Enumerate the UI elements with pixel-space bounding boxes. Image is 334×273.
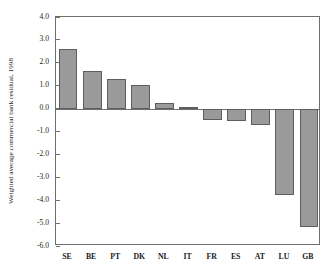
plot-area: 4.03.02.01.00.0-1.0-2.0-3.0-4.0-5.0-6.0 xyxy=(55,16,320,245)
bar-se xyxy=(59,49,78,109)
y-axis-tick-mark xyxy=(56,200,60,201)
x-axis-label-it: IT xyxy=(183,252,191,261)
y-axis-title-container: Weighted average commercial bank residua… xyxy=(4,16,18,245)
x-axis-label-gb: GB xyxy=(302,252,313,261)
x-axis-label-fr: FR xyxy=(206,252,216,261)
plot-inner: 4.03.02.01.00.0-1.0-2.0-3.0-4.0-5.0-6.0 xyxy=(56,17,319,244)
x-axis-label-dk: DK xyxy=(133,252,145,261)
y-axis-tick-label: -4.0 xyxy=(37,195,49,204)
y-axis-tick-mark xyxy=(56,131,60,132)
x-axis-label-nl: NL xyxy=(158,252,169,261)
y-axis-tick-mark xyxy=(56,154,60,155)
bar-lu xyxy=(275,109,294,196)
bar-nl xyxy=(155,103,174,109)
x-axis-label-be: BE xyxy=(86,252,96,261)
y-axis-tick-label: 3.0 xyxy=(40,34,50,43)
bar-dk xyxy=(131,85,150,109)
y-axis-tick-label: -6.0 xyxy=(37,241,49,250)
y-axis-tick-label: -5.0 xyxy=(37,218,49,227)
figure: Weighted average commercial bank residua… xyxy=(0,0,334,273)
bar-pt xyxy=(107,79,126,108)
x-axis-label-es: ES xyxy=(231,252,241,261)
x-axis-label-at: AT xyxy=(255,252,265,261)
y-axis-tick-mark xyxy=(56,246,60,247)
y-axis-tick-mark xyxy=(56,17,60,18)
y-axis-tick-mark xyxy=(56,39,60,40)
y-axis-tick-label: 1.0 xyxy=(40,80,50,89)
y-axis-tick-label: 0.0 xyxy=(40,103,50,112)
y-axis-tick-label: -2.0 xyxy=(37,149,49,158)
bar-es xyxy=(227,109,246,121)
bar-at xyxy=(251,109,270,125)
x-axis-label-lu: LU xyxy=(278,252,289,261)
x-axis-label-pt: PT xyxy=(110,252,120,261)
bar-it xyxy=(179,107,198,109)
y-axis-tick-mark xyxy=(56,223,60,224)
y-axis-title: Weighted average commercial bank residua… xyxy=(7,58,15,204)
bar-be xyxy=(83,71,102,109)
x-axis-label-se: SE xyxy=(62,252,72,261)
y-axis-tick-mark xyxy=(56,177,60,178)
y-axis-tick-label: -3.0 xyxy=(37,172,49,181)
y-axis-tick-label: 4.0 xyxy=(40,12,50,21)
y-axis-tick-label: 2.0 xyxy=(40,57,50,66)
y-axis-tick-label: -1.0 xyxy=(37,126,49,135)
bar-gb xyxy=(300,109,319,227)
bar-fr xyxy=(203,109,222,120)
